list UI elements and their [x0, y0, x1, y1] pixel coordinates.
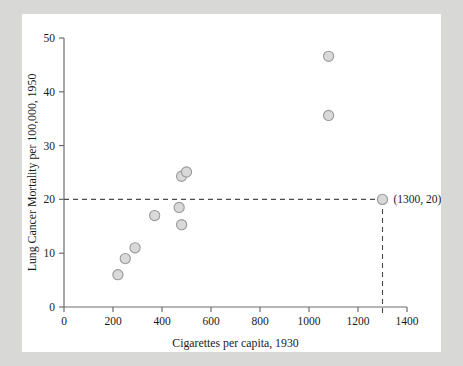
data-point[interactable] — [150, 210, 160, 220]
data-point[interactable] — [174, 202, 184, 212]
x-tick-label: 1000 — [298, 315, 321, 327]
data-points — [113, 51, 334, 280]
x-axis-title: Cigarettes per capita, 1930 — [172, 336, 299, 350]
y-axis: 01020304050 — [44, 32, 65, 313]
data-point[interactable] — [120, 253, 130, 263]
data-point[interactable] — [324, 110, 334, 120]
y-tick-label: 0 — [49, 301, 55, 313]
data-point[interactable] — [177, 220, 187, 230]
x-tick-label: 600 — [202, 315, 220, 327]
guide-lines — [64, 199, 383, 313]
highlight-point[interactable] — [377, 194, 387, 204]
scatter-plot: 01020304050 0200400600800100012001400 (1… — [22, 14, 441, 352]
y-axis-title: Lung Cancer Mortality per 100,000, 1950 — [25, 74, 39, 272]
x-tick-label: 1200 — [347, 315, 370, 327]
y-tick-label: 30 — [44, 140, 56, 152]
plot-canvas: 01020304050 0200400600800100012001400 (1… — [22, 14, 441, 352]
x-axis: 0200400600800100012001400 — [61, 307, 419, 327]
x-tick-label: 1400 — [396, 315, 419, 327]
x-tick-label: 0 — [61, 315, 67, 327]
data-point[interactable] — [324, 51, 334, 61]
data-point[interactable] — [113, 270, 123, 280]
highlight-point-group: (1300, 20) — [377, 193, 441, 206]
highlight-point-label: (1300, 20) — [394, 193, 442, 206]
data-point[interactable] — [181, 167, 191, 177]
y-tick-label: 40 — [44, 86, 56, 98]
x-tick-label: 400 — [153, 315, 171, 327]
y-tick-label: 20 — [44, 193, 56, 205]
y-tick-label: 10 — [44, 247, 56, 259]
y-tick-label: 50 — [44, 32, 56, 44]
data-point[interactable] — [130, 243, 140, 253]
x-tick-label: 200 — [104, 315, 122, 327]
figure-card: 01020304050 0200400600800100012001400 (1… — [22, 14, 441, 352]
x-tick-label: 800 — [251, 315, 269, 327]
